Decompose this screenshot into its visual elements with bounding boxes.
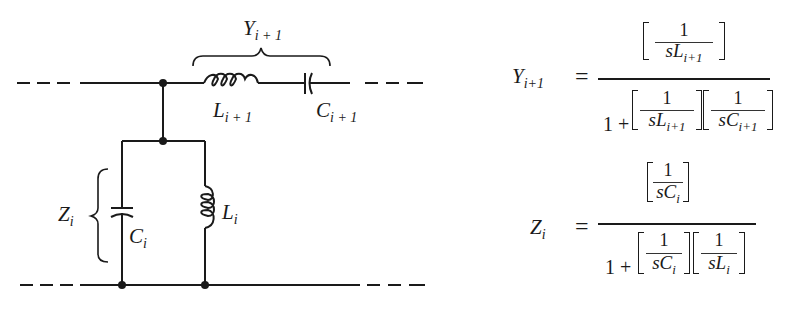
- eq-Y-lhs-base: Y: [512, 64, 524, 88]
- eq-Z-num-den: sCi: [647, 181, 689, 207]
- term2-den: sLi: [693, 252, 745, 278]
- den-base: sL: [708, 252, 726, 273]
- label-Z-shunt: Zi: [58, 204, 74, 229]
- shunt-inductor-L-i: [201, 186, 214, 228]
- label-L-series-base: L: [213, 98, 225, 122]
- den-base: sC: [719, 109, 739, 130]
- term1-den: sLi+1: [632, 109, 702, 135]
- eq-Z-den-term2: 1 sLi: [693, 232, 745, 274]
- brace-Y: [193, 48, 330, 66]
- eq-Y-one-plus: 1 +: [603, 113, 629, 136]
- label-L-shunt: Li: [222, 202, 238, 227]
- junction-dot-bottom-left: [118, 281, 126, 289]
- den-sub: i+1: [667, 119, 686, 134]
- label-C-series: Ci + 1: [316, 100, 357, 125]
- brace-Z: [91, 169, 108, 262]
- eq-Z-lhs: Zi: [530, 215, 546, 243]
- eq-Y-numerator-bracket: 1 sLi+1: [643, 22, 725, 60]
- term2-num: 1: [703, 88, 773, 109]
- label-C-series-sub: i + 1: [330, 110, 357, 125]
- eq-Z-num-num: 1: [647, 160, 689, 181]
- eq-Y-num-den: sLi+1: [643, 40, 725, 66]
- label-C-series-base: C: [316, 98, 330, 122]
- eq-Z-equals: =: [575, 213, 589, 240]
- label-C-shunt: Ci: [129, 226, 147, 251]
- series-inductor-L-i+1: [204, 74, 258, 86]
- eq-Z-lhs-sub: i: [542, 227, 546, 242]
- den-base: sL: [649, 109, 667, 130]
- ladder-circuit: [0, 0, 440, 310]
- eq-Z-den-term1: 1 sCi: [638, 232, 690, 274]
- den-sub: i: [672, 262, 676, 277]
- den-base: sC: [652, 252, 672, 273]
- eq-Y-den-term1: 1 sLi+1: [632, 90, 702, 130]
- eq-Y-main-fraction-bar: [598, 78, 770, 80]
- label-C-shunt-sub: i: [143, 236, 147, 251]
- label-Y-sub: i + 1: [255, 28, 282, 43]
- eq-Y-num-num: 1: [643, 20, 725, 41]
- den-sub: i+1: [684, 50, 703, 65]
- label-L-series: Li + 1: [213, 100, 252, 125]
- term1-num: 1: [638, 230, 690, 251]
- term2-den: sCi+1: [703, 109, 773, 135]
- den-base: sL: [666, 40, 684, 61]
- label-Y-base: Y: [243, 16, 255, 40]
- junction-dot-top: [159, 79, 167, 87]
- eq-Z-lhs-base: Z: [530, 215, 542, 239]
- eq-Y-lhs-sub: i+1: [524, 76, 544, 91]
- term1-den: sCi: [638, 252, 690, 278]
- term2-num: 1: [693, 230, 745, 251]
- term1-num: 1: [632, 88, 702, 109]
- label-Y-series: Yi + 1: [243, 18, 282, 43]
- label-Z-base: Z: [58, 202, 70, 226]
- junction-dot-bottom-right: [201, 281, 209, 289]
- label-L-shunt-base: L: [222, 200, 234, 224]
- eq-Z-one-plus: 1 +: [605, 256, 631, 279]
- eq-Y-lhs: Yi+1: [512, 64, 544, 92]
- den-base: sC: [656, 181, 676, 202]
- label-Z-sub: i: [70, 214, 74, 229]
- label-L-shunt-sub: i: [234, 212, 238, 227]
- eq-Z-main-fraction-bar: [598, 223, 756, 225]
- eq-Z-numerator-bracket: 1 sCi: [647, 162, 689, 202]
- eq-Y-den-term2: 1 sCi+1: [703, 90, 773, 130]
- den-sub: i+1: [739, 119, 758, 134]
- junction-dot-box: [159, 137, 167, 145]
- label-L-series-sub: i + 1: [225, 110, 252, 125]
- eq-Y-equals: =: [575, 63, 589, 90]
- den-sub: i: [726, 262, 730, 277]
- den-sub: i: [676, 191, 680, 206]
- label-C-shunt-base: C: [129, 224, 143, 248]
